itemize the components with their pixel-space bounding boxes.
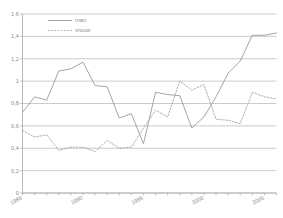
gridlines bbox=[23, 14, 277, 193]
chart-canvas: 00,20,40,60,811,21,41,6 1985199019952000… bbox=[0, 0, 283, 218]
y-axis-tick-label: 0,4 bbox=[11, 145, 19, 151]
series-line-man bbox=[23, 33, 277, 144]
y-axis-tick-label: 1 bbox=[16, 78, 19, 84]
y-axis-tick-label: 1,2 bbox=[11, 56, 19, 62]
x-axis-tick-label: 2000 bbox=[191, 195, 205, 206]
y-axis-labels: 00,20,40,60,811,21,41,6 bbox=[11, 11, 19, 196]
x-axis-tick-label: 1995 bbox=[130, 195, 144, 206]
legend-label-vrouw: vrouw bbox=[75, 27, 91, 33]
x-axis-tick-label: 1990 bbox=[70, 195, 84, 206]
legend-label-man: man bbox=[75, 17, 86, 23]
y-axis-tick-label: 0,6 bbox=[11, 123, 19, 129]
y-axis-tick-label: 1,4 bbox=[11, 33, 19, 39]
y-axis-tick-label: 0,8 bbox=[11, 100, 19, 106]
line-chart: 00,20,40,60,811,21,41,6 1985199019952000… bbox=[0, 0, 283, 218]
x-axis-tick-label: 1985 bbox=[9, 195, 23, 206]
chart-legend: man vrouw bbox=[48, 17, 91, 33]
y-axis-tick-label: 0,2 bbox=[11, 168, 19, 174]
x-axis-labels: 19851990199520002005 bbox=[9, 195, 265, 206]
y-axis-tick-label: 1,6 bbox=[11, 11, 19, 17]
x-axis-tick-label: 2005 bbox=[251, 195, 265, 206]
